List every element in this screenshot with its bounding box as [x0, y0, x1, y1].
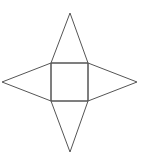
- base-square: [51, 63, 88, 101]
- face-left-triangle: [2, 63, 51, 101]
- face-right-triangle: [88, 63, 137, 101]
- pyramid-net-diagram: [0, 0, 147, 155]
- face-bottom-triangle: [51, 101, 88, 152]
- face-top-triangle: [51, 13, 88, 63]
- diagram-svg: [0, 0, 147, 155]
